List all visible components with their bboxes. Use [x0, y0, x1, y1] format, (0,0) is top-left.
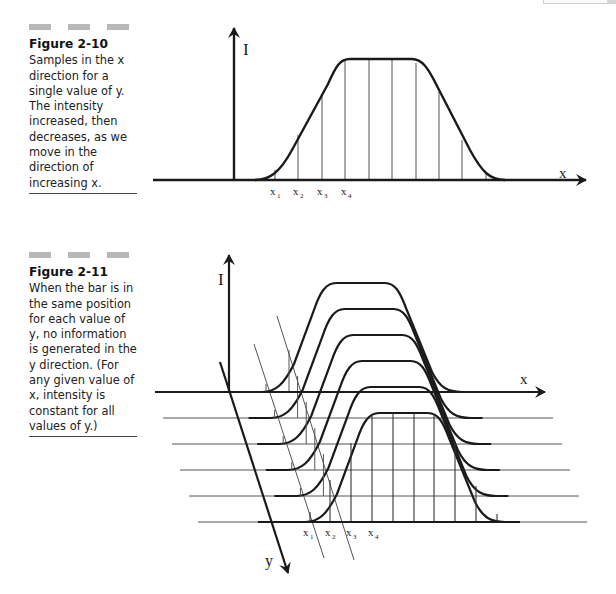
svg-text:x: x	[317, 185, 323, 197]
svg-text:3: 3	[353, 533, 357, 541]
intensity-curve	[255, 59, 505, 180]
svg-text:4: 4	[375, 533, 379, 541]
svg-text:x: x	[368, 526, 374, 538]
svg-text:3: 3	[324, 192, 328, 200]
i-axis-label: I	[218, 270, 224, 289]
svg-text:2: 2	[332, 533, 336, 541]
i-axis-label: I	[243, 40, 249, 59]
sample-tick-labels: x 1 x 2 x 3 x 4	[270, 185, 352, 200]
y-axis-label: y	[265, 552, 273, 570]
layer-baselines	[163, 418, 587, 522]
front-layer-sample-lines	[310, 413, 497, 522]
svg-text:1: 1	[310, 533, 314, 541]
svg-text:4: 4	[348, 192, 352, 200]
x-axis-label: x	[520, 371, 528, 387]
svg-text:1: 1	[277, 192, 281, 200]
svg-text:x: x	[293, 185, 299, 197]
svg-text:x: x	[341, 185, 347, 197]
svg-text:2: 2	[300, 192, 304, 200]
figure-2-10-diagram: I x x 1 x 2 x 3 x 4	[153, 28, 586, 200]
figure-2-11-diagram: I x y x 1 x 2 x 3 x 4	[155, 255, 587, 573]
x-axis-label: x	[559, 165, 567, 181]
svg-text:x: x	[303, 526, 309, 538]
y-axis	[220, 362, 288, 573]
svg-text:x: x	[325, 526, 331, 538]
svg-text:x: x	[270, 185, 276, 197]
svg-text:x: x	[346, 526, 352, 538]
diagrams-canvas: I x x 1 x 2 x 3 x 4	[0, 0, 616, 594]
